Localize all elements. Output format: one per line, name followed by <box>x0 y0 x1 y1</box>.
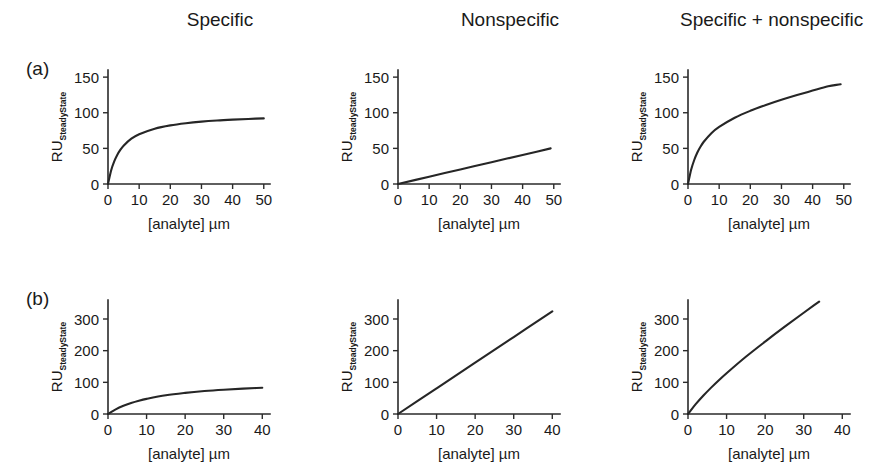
plot-panel-a-nonspecific: 05010015001020304050[analyte] µmRUSteady… <box>290 52 580 252</box>
y-tick-label: 300 <box>654 311 679 328</box>
y-tick-label: 0 <box>381 406 389 423</box>
y-axis-title-main: RU <box>628 371 645 393</box>
x-tick-label: 50 <box>255 191 272 208</box>
svg-text:RUSteadyState: RUSteadyState <box>338 322 358 393</box>
y-tick-label: 150 <box>364 69 389 86</box>
plot-panel-b-nonspecific: 0100200300010203040[analyte] µmRUSteadyS… <box>290 282 580 468</box>
y-tick-label: 0 <box>381 176 389 193</box>
column-title-nonspecific: Nonspecific <box>410 8 610 32</box>
plot-area: 05010015001020304050[analyte] µmRUSteady… <box>580 52 870 252</box>
y-tick-label: 200 <box>654 342 679 359</box>
x-tick-label: 40 <box>224 191 241 208</box>
axis-spines <box>108 70 270 184</box>
svg-text:RUSteadyState: RUSteadyState <box>48 322 68 393</box>
y-tick-label: 100 <box>74 104 99 121</box>
y-tick-label: 100 <box>654 104 679 121</box>
y-axis-title: RUSteadyState <box>48 322 68 393</box>
data-curve <box>688 84 841 184</box>
y-axis-title-subscript: SteadyState <box>58 92 68 141</box>
column-title-specific: Specific <box>120 8 320 32</box>
y-axis-title-subscript: SteadyState <box>638 322 648 371</box>
svg-text:RUSteadyState: RUSteadyState <box>338 92 358 163</box>
x-axis-title: [analyte] µm <box>438 215 520 232</box>
y-tick-label: 100 <box>364 104 389 121</box>
axis-spines <box>688 300 850 414</box>
y-axis-title: RUSteadyState <box>338 92 358 163</box>
x-axis-title: [analyte] µm <box>148 445 230 462</box>
y-axis-title: RUSteadyState <box>48 92 68 163</box>
y-tick-label: 100 <box>364 374 389 391</box>
x-tick-label: 0 <box>104 191 112 208</box>
x-axis-title: [analyte] µm <box>728 215 810 232</box>
plot-area: 0100200300010203040[analyte] µmRUSteadyS… <box>290 282 580 468</box>
x-tick-label: 0 <box>104 421 112 438</box>
x-tick-label: 40 <box>254 421 271 438</box>
x-tick-label: 30 <box>193 191 210 208</box>
x-axis-title: [analyte] µm <box>728 445 810 462</box>
x-tick-label: 10 <box>711 191 728 208</box>
data-curve <box>108 118 264 184</box>
x-tick-label: 10 <box>718 421 735 438</box>
plot-area: 05010015001020304050[analyte] µmRUSteady… <box>290 52 580 252</box>
plot-area: 05010015001020304050[analyte] µmRUSteady… <box>0 52 290 252</box>
y-tick-label: 200 <box>74 342 99 359</box>
x-tick-label: 40 <box>544 421 561 438</box>
x-tick-label: 20 <box>162 191 179 208</box>
x-tick-label: 10 <box>138 421 155 438</box>
x-tick-label: 30 <box>773 191 790 208</box>
y-axis-title: RUSteadyState <box>628 92 648 163</box>
x-tick-label: 30 <box>505 421 522 438</box>
y-tick-label: 0 <box>671 176 679 193</box>
x-tick-label: 40 <box>514 191 531 208</box>
x-axis-title: [analyte] µm <box>148 215 230 232</box>
plot-panel-b-specific-plus-nonspecific: 0100200300010203040[analyte] µmRUSteadyS… <box>580 282 870 468</box>
svg-text:RUSteadyState: RUSteadyState <box>48 92 68 163</box>
axis-spines <box>398 70 560 184</box>
x-tick-label: 10 <box>428 421 445 438</box>
y-tick-label: 300 <box>364 311 389 328</box>
y-axis-title-subscript: SteadyState <box>348 92 358 141</box>
x-tick-label: 50 <box>545 191 562 208</box>
x-tick-label: 20 <box>742 191 759 208</box>
y-axis-title-subscript: SteadyState <box>348 322 358 371</box>
x-tick-label: 20 <box>757 421 774 438</box>
plot-area: 0100200300010203040[analyte] µmRUSteadyS… <box>0 282 290 468</box>
x-tick-label: 20 <box>177 421 194 438</box>
y-axis-title: RUSteadyState <box>628 322 648 393</box>
y-tick-label: 200 <box>364 342 389 359</box>
plot-panel-a-specific: 05010015001020304050[analyte] µmRUSteady… <box>0 52 290 252</box>
y-tick-label: 150 <box>74 69 99 86</box>
y-tick-label: 100 <box>74 374 99 391</box>
y-tick-label: 150 <box>654 69 679 86</box>
axis-spines <box>108 300 270 414</box>
x-tick-label: 30 <box>795 421 812 438</box>
x-tick-label: 40 <box>804 191 821 208</box>
x-tick-label: 20 <box>467 421 484 438</box>
x-tick-label: 0 <box>394 421 402 438</box>
y-tick-label: 50 <box>662 140 679 157</box>
x-tick-label: 20 <box>452 191 469 208</box>
y-tick-label: 50 <box>82 140 99 157</box>
plot-area: 0100200300010203040[analyte] µmRUSteadyS… <box>580 282 870 468</box>
x-axis-title: [analyte] µm <box>438 445 520 462</box>
y-axis-title-main: RU <box>48 371 65 393</box>
x-tick-label: 40 <box>834 421 851 438</box>
y-tick-label: 50 <box>372 140 389 157</box>
figure-root: Specific Nonspecific Specific + nonspeci… <box>0 0 876 468</box>
y-axis-title-main: RU <box>628 141 645 163</box>
svg-text:RUSteadyState: RUSteadyState <box>628 322 648 393</box>
y-axis-title-subscript: SteadyState <box>638 92 648 141</box>
y-tick-label: 0 <box>91 406 99 423</box>
y-axis-title-subscript: SteadyState <box>58 322 68 371</box>
y-tick-label: 0 <box>671 406 679 423</box>
y-tick-label: 0 <box>91 176 99 193</box>
x-tick-label: 0 <box>684 421 692 438</box>
x-tick-label: 10 <box>421 191 438 208</box>
column-title-specific-plus-nonspecific: Specific + nonspecific <box>680 8 876 32</box>
x-tick-label: 30 <box>483 191 500 208</box>
y-axis-title-main: RU <box>338 371 355 393</box>
y-tick-label: 100 <box>654 374 679 391</box>
x-tick-label: 10 <box>131 191 148 208</box>
y-axis-title-main: RU <box>48 141 65 163</box>
x-tick-label: 50 <box>835 191 852 208</box>
